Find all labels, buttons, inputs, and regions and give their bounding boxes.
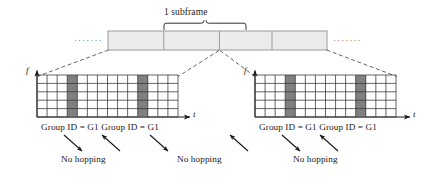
- subframe-bar: [108, 31, 327, 50]
- no-hopping-label-2: No hopping: [177, 155, 222, 164]
- right-grid-axes: [255, 71, 410, 118]
- figure-canvas: 1 subframe ······· ······· f t f t Group…: [0, 0, 441, 187]
- no-hopping-arrows: [64, 135, 338, 151]
- ellipsis-right: ·······: [333, 36, 362, 45]
- right-grid-caption: Group ID = G1 Group ID = G1: [259, 123, 377, 132]
- expansion-connectors: [37, 50, 397, 77]
- right-grid-t-axis-label: t: [413, 110, 416, 119]
- no-hopping-label-1: No hopping: [61, 155, 106, 164]
- subframe-label: 1 subframe: [164, 8, 207, 18]
- subframe-brace: [164, 21, 246, 30]
- left-grid-axes: [37, 71, 190, 118]
- no-hopping-label-3: No hopping: [293, 155, 338, 164]
- right-grid-f-axis-label: f: [244, 66, 247, 75]
- left-grid-caption: Group ID = G1 Group ID = G1: [41, 123, 159, 132]
- left-grid: [37, 75, 178, 117]
- left-grid-t-axis-label: t: [193, 110, 196, 119]
- ellipsis-left: ·······: [74, 36, 103, 45]
- left-grid-f-axis-label: f: [26, 66, 29, 75]
- right-grid: [255, 75, 396, 117]
